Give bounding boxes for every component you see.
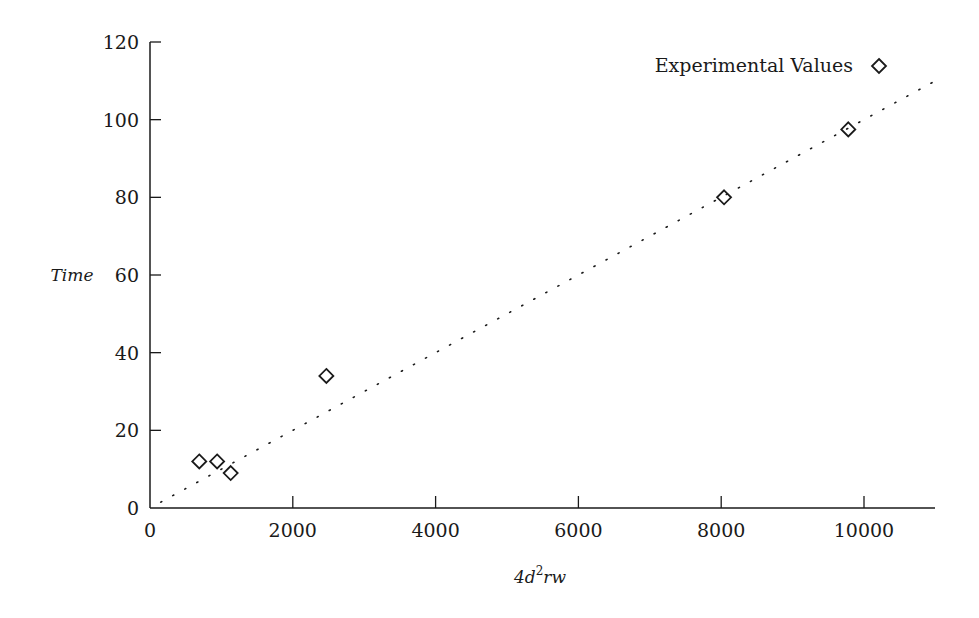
legend-marker-diamond xyxy=(872,59,886,73)
x-tick-label: 0 xyxy=(144,519,156,541)
x-label-rest: rw xyxy=(543,567,566,587)
x-tick-label: 2000 xyxy=(269,519,317,541)
data-point xyxy=(841,122,855,136)
x-tick-label: 8000 xyxy=(697,519,745,541)
axes xyxy=(150,42,935,508)
fit-line-path xyxy=(161,81,936,502)
y-ticks: 020406080100120 xyxy=(103,31,161,519)
x-tick-label: 10000 xyxy=(834,519,894,541)
data-point xyxy=(210,454,224,468)
data-point xyxy=(224,466,238,480)
y-tick-label: 40 xyxy=(115,342,139,364)
y-tick-label: 0 xyxy=(127,497,139,519)
x-ticks: 0200040006000800010000 xyxy=(144,496,894,541)
x-tick-label: 4000 xyxy=(411,519,459,541)
data-point xyxy=(717,190,731,204)
x-tick-label: 6000 xyxy=(554,519,602,541)
data-point xyxy=(319,369,333,383)
y-tick-label: 80 xyxy=(115,186,139,208)
data-point xyxy=(192,454,206,468)
y-tick-label: 100 xyxy=(103,109,139,131)
y-axis-label: Time xyxy=(51,265,94,285)
x-label-base: 4d xyxy=(513,567,536,587)
x-axis-label: 4d2rw xyxy=(513,564,566,587)
data-points xyxy=(192,122,855,480)
chart: 0200040006000800010000 020406080100120 E… xyxy=(0,0,979,618)
x-label-sup: 2 xyxy=(536,564,544,578)
y-tick-label: 120 xyxy=(103,31,139,53)
legend-label: Experimental Values xyxy=(655,54,853,76)
y-tick-label: 20 xyxy=(115,419,139,441)
legend: Experimental Values xyxy=(655,54,886,76)
fit-line xyxy=(161,81,936,502)
y-tick-label: 60 xyxy=(115,264,139,286)
